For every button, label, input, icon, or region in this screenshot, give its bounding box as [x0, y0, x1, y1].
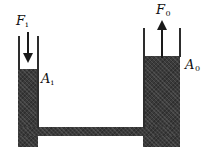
right-tube-inner-wall — [143, 28, 145, 57]
arrow-head — [23, 53, 33, 63]
left-tube-inner-wall — [37, 36, 39, 70]
force-output-label: F0 — [156, 3, 171, 16]
area-output-symbol: A — [185, 57, 194, 72]
fluid-bottom-channel — [18, 127, 180, 136]
arrow-shaft — [161, 29, 163, 58]
area-input-subscript: i — [50, 78, 53, 87]
force-output-subscript: 0 — [165, 9, 171, 18]
hydraulic-press-figure: Fi F0 Ai A0 — [0, 0, 208, 147]
force-input-symbol: F — [16, 13, 25, 28]
force-input-subscript: i — [25, 20, 28, 29]
cavity-right-edge — [143, 56, 145, 128]
cavity-left-edge — [37, 69, 39, 128]
area-input-label: Ai — [41, 72, 53, 85]
force-output-arrow-up-icon — [156, 20, 168, 58]
force-input-arrow-down-icon — [22, 32, 34, 64]
area-input-symbol: A — [41, 71, 50, 86]
area-output-label: A0 — [185, 58, 200, 71]
area-output-subscript: 0 — [194, 64, 200, 73]
left-tube-outer-wall — [18, 36, 20, 70]
right-tube-outer-wall — [179, 28, 181, 57]
force-input-label: Fi — [16, 14, 28, 27]
force-output-symbol: F — [156, 2, 165, 17]
arrow-head — [157, 20, 167, 30]
